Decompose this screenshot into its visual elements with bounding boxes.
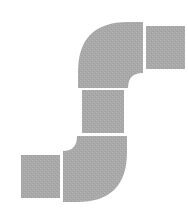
- bottom-elbow-pipe: [63, 136, 127, 202]
- pipe-diagram-canvas: [0, 0, 188, 222]
- left-straight-pipe: [21, 155, 60, 198]
- top-elbow-pipe: [78, 22, 143, 88]
- pipe-s-diagram: [0, 0, 188, 222]
- right-straight-pipe: [146, 26, 185, 69]
- middle-straight-pipe: [82, 90, 124, 133]
